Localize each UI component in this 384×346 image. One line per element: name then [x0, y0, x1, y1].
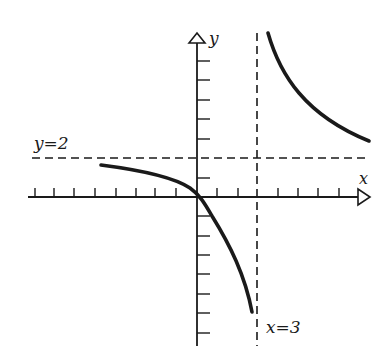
curve-right-branch — [268, 33, 369, 141]
vertical-asymptote-label: x=3 — [266, 317, 301, 337]
y-axis-arrow-icon — [189, 33, 205, 43]
graph-canvas: y x y=2 x=3 — [0, 0, 384, 346]
x-axis-arrow-icon — [358, 189, 370, 205]
y-axis-label: y — [208, 28, 219, 48]
rational-function-graph: y x y=2 x=3 — [0, 0, 384, 346]
horizontal-asymptote-label: y=2 — [33, 133, 69, 153]
curve-left-branch — [101, 165, 252, 312]
x-ticks — [35, 188, 339, 197]
x-axis-label: x — [359, 169, 368, 188]
